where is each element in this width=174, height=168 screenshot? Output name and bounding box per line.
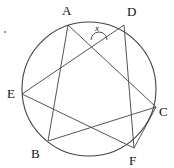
point-label-layer: ADECBF xyxy=(7,3,168,168)
chord-AC xyxy=(68,25,156,107)
point-label-A: A xyxy=(62,3,72,18)
chord-DF xyxy=(124,25,134,148)
point-label-B: B xyxy=(31,146,40,161)
angle-label-x: x xyxy=(94,23,99,33)
diagram-canvas: ADECBF x xyxy=(0,0,174,168)
chord-DE xyxy=(22,25,124,94)
circumscribed-circle xyxy=(22,22,156,156)
chord-EF xyxy=(22,94,134,148)
point-label-C: C xyxy=(159,104,168,119)
chord-AB xyxy=(48,25,68,141)
point-label-D: D xyxy=(127,4,136,19)
chord-layer xyxy=(22,25,156,148)
stray-dot xyxy=(4,31,6,33)
point-label-E: E xyxy=(7,86,15,101)
chord-BC xyxy=(48,107,156,141)
point-label-F: F xyxy=(129,153,136,168)
geometry-figure: ADECBF x xyxy=(0,0,174,168)
angle-arc-marker xyxy=(91,32,107,40)
